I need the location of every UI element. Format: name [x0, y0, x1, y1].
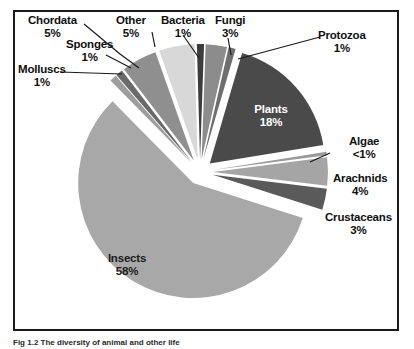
- label-protozoa-name: Protozoa: [318, 29, 366, 41]
- label-fungi-pct: 3%: [215, 27, 245, 40]
- label-plants: Plants 18%: [238, 103, 304, 129]
- label-bacteria: Bacteria 1%: [161, 14, 205, 39]
- label-protozoa: Protozoa 1%: [318, 29, 366, 54]
- label-insects: Insects 58%: [94, 252, 160, 278]
- label-molluscs-pct: 1%: [18, 76, 66, 89]
- leader-line-other: [152, 32, 155, 47]
- label-insects-name: Insects: [108, 252, 146, 264]
- label-plants-name: Plants: [254, 103, 287, 115]
- figure-caption: Fig 1.2 The diversity of animal and othe…: [13, 338, 273, 349]
- label-chordata-name: Chordata: [28, 14, 77, 26]
- label-protozoa-pct: 1%: [318, 42, 366, 55]
- label-molluscs-name: Molluscs: [18, 63, 66, 75]
- leader-line-protozoa: [238, 37, 320, 59]
- label-crustaceans-name: Crustaceans: [325, 211, 392, 223]
- label-sponges-pct: 1%: [66, 51, 113, 64]
- label-other-name: Other: [116, 14, 146, 26]
- label-arachnids: Arachnids 4%: [333, 172, 387, 197]
- label-algae: Algae <1%: [349, 135, 379, 160]
- leader-line-molluscs: [60, 72, 122, 74]
- label-sponges-name: Sponges: [66, 38, 113, 50]
- label-other: Other 5%: [116, 14, 146, 39]
- label-fungi-name: Fungi: [215, 14, 245, 26]
- pie-chart-figure: Chordata 5% Sponges 1% Molluscs 1% Other…: [0, 0, 414, 349]
- label-arachnids-name: Arachnids: [333, 172, 387, 184]
- label-other-pct: 5%: [116, 27, 146, 40]
- label-molluscs: Molluscs 1%: [18, 63, 66, 88]
- label-algae-name: Algae: [349, 135, 379, 147]
- label-fungi: Fungi 3%: [215, 14, 245, 39]
- label-bacteria-name: Bacteria: [161, 14, 205, 26]
- label-chordata: Chordata 5%: [28, 14, 77, 39]
- label-algae-pct: <1%: [349, 148, 379, 161]
- label-sponges: Sponges 1%: [66, 38, 113, 63]
- label-plants-pct: 18%: [238, 116, 304, 129]
- label-insects-pct: 58%: [94, 265, 160, 278]
- label-bacteria-pct: 1%: [161, 27, 205, 40]
- label-crustaceans-pct: 3%: [325, 224, 392, 237]
- label-arachnids-pct: 4%: [333, 185, 387, 198]
- label-crustaceans: Crustaceans 3%: [325, 211, 392, 236]
